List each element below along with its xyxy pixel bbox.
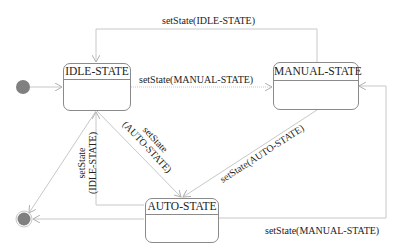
state-auto[interactable]: AUTO-STATE bbox=[145, 198, 219, 243]
state-idle-title: IDLE-STATE bbox=[64, 64, 130, 80]
label-auto-to-idle-line2: (IDLE-STATE) bbox=[87, 132, 98, 194]
final-state-icon bbox=[18, 213, 31, 226]
transition-manual-to-idle bbox=[96, 29, 317, 62]
label-auto-to-idle-line1: setState bbox=[76, 132, 87, 194]
label-manual-to-idle: setState(IDLE-STATE) bbox=[162, 15, 255, 26]
initial-state-icon bbox=[16, 80, 30, 94]
state-idle[interactable]: IDLE-STATE bbox=[63, 63, 131, 111]
state-manual[interactable]: MANUAL-STATE bbox=[273, 62, 359, 110]
state-diagram: IDLE-STATE MANUAL-STATE AUTO-STATE setSt… bbox=[0, 0, 398, 252]
state-manual-title: MANUAL-STATE bbox=[274, 63, 358, 81]
state-auto-title: AUTO-STATE bbox=[146, 199, 218, 215]
label-auto-to-manual: setState(MANUAL-STATE) bbox=[265, 225, 379, 236]
label-idle-to-manual: setState(MANUAL-STATE) bbox=[139, 74, 253, 85]
label-auto-to-idle: setState (IDLE-STATE) bbox=[76, 132, 98, 194]
